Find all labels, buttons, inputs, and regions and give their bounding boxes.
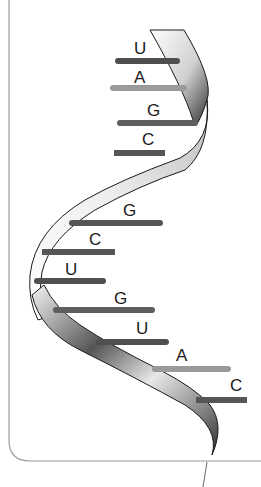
rna-helix-diagram: U A G C G C U G U A C [0,0,261,487]
base-label: U [65,260,77,279]
ribbon-front-middle [30,100,208,320]
base-label: C [230,376,242,395]
base-label: C [142,130,154,149]
base-label: U [134,39,146,58]
base-label: A [134,68,146,87]
base-label: U [136,319,148,338]
base-label: A [176,346,188,365]
base-label: G [147,101,160,120]
base-label: C [89,230,101,249]
base-label: G [114,289,127,308]
base-label: G [123,201,136,220]
